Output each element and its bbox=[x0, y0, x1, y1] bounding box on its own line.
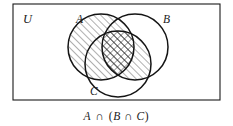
caption-token-c: C bbox=[137, 110, 145, 122]
caption-token-b: B bbox=[113, 110, 120, 122]
set-label-c: C bbox=[90, 85, 98, 97]
set-label-b: B bbox=[163, 13, 170, 25]
caption-token-cap2: ∩ bbox=[124, 110, 132, 122]
caption-token-a: A bbox=[82, 110, 91, 122]
caption-token-rparen: ) bbox=[145, 110, 149, 123]
set-label-a: A bbox=[75, 13, 84, 25]
venn-diagram-figure: U A B C A∩(B∩C) bbox=[0, 0, 233, 126]
universe-label: U bbox=[23, 12, 33, 26]
caption-token-cap1: ∩ bbox=[96, 110, 104, 122]
